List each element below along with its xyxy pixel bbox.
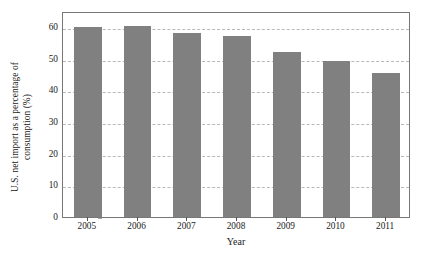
x-tick-label: 2009 — [276, 221, 295, 232]
bar-series — [63, 13, 409, 217]
x-tick-label: 2010 — [326, 221, 345, 232]
bar — [124, 26, 152, 217]
x-tick-label: 2006 — [127, 221, 146, 232]
y-tick-label: 50 — [38, 55, 58, 64]
bar — [372, 73, 400, 217]
x-tick-label: 2007 — [177, 221, 196, 232]
x-tick-mark — [385, 217, 386, 221]
x-tick-label: 2008 — [227, 221, 246, 232]
x-tick-mark — [137, 217, 138, 221]
x-tick-mark — [335, 217, 336, 221]
y-tick-label: 30 — [38, 118, 58, 127]
bar — [323, 61, 351, 217]
y-tick-label: 10 — [38, 182, 58, 191]
y-axis-title-container: U.S. net import as a percentage of consu… — [0, 0, 42, 254]
y-tick-label: 60 — [38, 23, 58, 32]
bar — [223, 36, 251, 217]
x-tick-mark — [286, 217, 287, 221]
plot-area — [62, 12, 410, 218]
bar-chart-figure: U.S. net import as a percentage of consu… — [0, 0, 430, 254]
y-axis-title: U.S. net import as a percentage of consu… — [10, 62, 33, 192]
x-tick-mark — [186, 217, 187, 221]
bar — [273, 52, 301, 217]
x-tick-label: 2005 — [78, 221, 97, 232]
bar — [74, 27, 102, 217]
y-tick-label: 20 — [38, 150, 58, 159]
y-axis-tick-labels: 0102030405060 — [38, 0, 58, 254]
y-tick-label: 0 — [38, 213, 58, 222]
y-axis-title-line-2: consumption (%) — [21, 62, 33, 192]
x-tick-mark — [236, 217, 237, 221]
y-tick-label: 40 — [38, 87, 58, 96]
x-tick-mark — [87, 217, 88, 221]
x-tick-label: 2011 — [376, 221, 394, 232]
x-axis-tick-labels: 2005200620072008200920102011 — [62, 221, 410, 235]
x-axis-title: Year — [62, 236, 410, 248]
bar — [173, 33, 201, 217]
y-axis-title-line-1: U.S. net import as a percentage of — [10, 62, 20, 192]
